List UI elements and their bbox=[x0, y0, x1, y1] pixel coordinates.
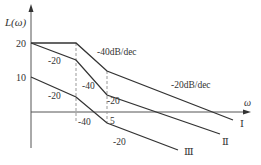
y-tick-20: 20 bbox=[16, 38, 26, 49]
x-axis-label: ω bbox=[244, 97, 251, 108]
corner-frequency-label: 5 bbox=[110, 116, 115, 126]
curve-label-III: Ⅲ bbox=[184, 146, 194, 157]
slope-label-line2-third: -20 bbox=[107, 96, 120, 106]
slope-label-line1-second: -20dB/dec bbox=[171, 80, 211, 90]
diagram-canvas: L(ω) ω 20 10 -40dB/dec -20dB/dec -20 -40… bbox=[0, 0, 261, 165]
curve-label-I: Ⅰ bbox=[240, 118, 244, 129]
y-tick-10: 10 bbox=[16, 72, 26, 83]
x-axis-arrow-icon bbox=[243, 110, 251, 115]
slope-label-line3-third: -20 bbox=[113, 137, 126, 147]
slope-label-line1-first: -40dB/dec bbox=[97, 47, 137, 57]
y-axis-arrow-icon bbox=[29, 4, 34, 12]
y-axis-label: L(ω) bbox=[4, 16, 27, 29]
slope-label-line2-second: -40 bbox=[82, 81, 95, 91]
slope-label-line3-first: -20 bbox=[48, 91, 61, 101]
curve-label-II: Ⅱ bbox=[222, 136, 229, 147]
curve-III bbox=[31, 77, 178, 150]
bode-diagram: L(ω) ω 20 10 -40dB/dec -20dB/dec -20 -40… bbox=[0, 0, 261, 165]
slope-label-line3-second: -40 bbox=[78, 117, 91, 127]
slope-label-line2-first: -20 bbox=[48, 56, 61, 66]
